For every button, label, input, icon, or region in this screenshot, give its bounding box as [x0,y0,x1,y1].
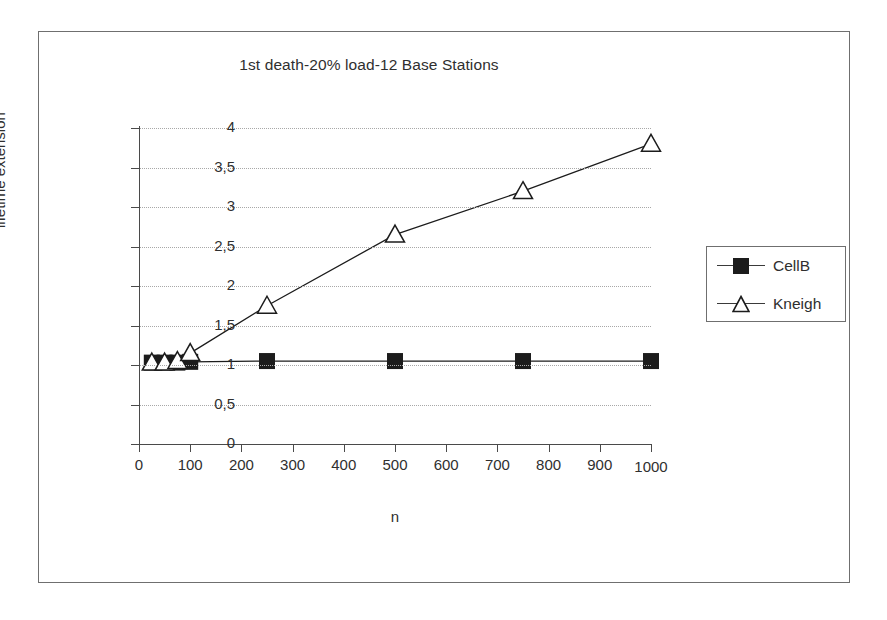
data-point-triangle [258,296,277,313]
data-point-square [515,353,531,369]
x-axis-tick [497,444,498,452]
x-axis-tick [344,444,345,452]
legend-marker-open-triangle-icon [715,294,767,314]
chart-title: 1st death-20% load-12 Base Stations [39,56,699,74]
triangle-icon [732,295,750,313]
x-axis-tick [241,444,242,452]
data-point-triangle [514,182,533,199]
y-axis-tick-label: 2,5 [214,237,235,254]
y-axis-tick-label: 0 [227,434,235,451]
data-point-triangle [386,225,405,242]
y-axis-tick-label: 1 [227,355,235,372]
y-axis-tick [131,326,139,327]
data-point-square [259,353,275,369]
chart-frame: 1st death-20% load-12 Base Stations life… [38,31,850,583]
gridline [139,365,651,366]
data-point-triangle [642,134,661,151]
x-axis-tick-label: 900 [568,456,632,473]
data-point-square [643,353,659,369]
y-axis-tick [131,128,139,129]
legend-label-cellb: CellB [773,257,810,275]
x-axis-tick [139,444,140,452]
gridline [139,207,651,208]
x-axis-title: n [138,508,652,525]
y-axis-tick-label: 4 [227,118,235,135]
gridline [139,286,651,287]
y-axis-tick [131,365,139,366]
gridline [139,128,651,129]
x-axis-tick-label: 1000 [634,456,668,478]
x-axis-tick [600,444,601,452]
chart-legend: CellB Kneigh [706,246,846,322]
legend-entry-kneigh: Kneigh [707,285,845,323]
y-axis-tick [131,247,139,248]
x-axis-tick [446,444,447,452]
data-point-square [387,353,403,369]
y-axis-tick-label: 2 [227,276,235,293]
y-axis-tick [131,444,139,445]
x-axis-tick [395,444,396,452]
x-axis-tick [293,444,294,452]
y-axis-tick-label: 1,5 [214,316,235,333]
legend-entry-cellb: CellB [707,247,845,285]
legend-marker-filled-square-icon [715,256,767,276]
x-axis-tick [190,444,191,452]
x-axis-tick [549,444,550,452]
y-axis-tick [131,286,139,287]
y-axis-tick-label: 3,5 [214,158,235,175]
x-axis-tick [651,444,652,452]
y-axis-tick [131,168,139,169]
y-axis-tick [131,405,139,406]
legend-label-kneigh: Kneigh [773,295,821,313]
y-axis-line [139,126,140,446]
y-axis-tick-label: 3 [227,197,235,214]
y-axis-title: lifetime extension [0,112,8,228]
y-axis-tick-label: 0,5 [214,395,235,412]
data-point-triangle [181,344,200,361]
y-axis-tick [131,207,139,208]
